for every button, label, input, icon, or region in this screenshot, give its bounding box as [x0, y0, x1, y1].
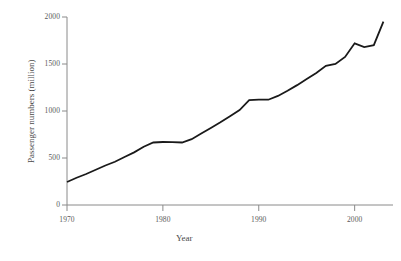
x-axis: [67, 205, 393, 211]
x-tick-label: 1970: [47, 215, 87, 224]
y-axis: [62, 17, 67, 205]
x-axis-title: Year: [176, 233, 193, 243]
x-axis-ticks: [67, 205, 355, 211]
x-tick-label: 2000: [335, 215, 375, 224]
line-chart: 0500100015002000 1970198019902000 Passen…: [0, 0, 401, 261]
y-tick-label: 0: [22, 200, 60, 209]
data-series-group: [67, 22, 383, 182]
data-line-passenger-numbers: [67, 22, 383, 182]
x-tick-label: 1980: [143, 215, 183, 224]
x-tick-label: 1990: [239, 215, 279, 224]
y-axis-title: Passenger numbers (million): [26, 60, 36, 163]
y-axis-ticks: [62, 17, 67, 205]
y-tick-label: 2000: [22, 12, 60, 21]
